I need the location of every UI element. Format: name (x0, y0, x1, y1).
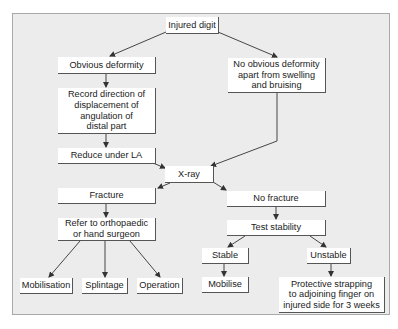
node-reduce-under-la: Reduce under LA (58, 148, 156, 164)
node-record-direction: Record direction of displacement of angu… (58, 88, 156, 134)
node-protective-strapping: Protective strapping to adjoining finger… (279, 277, 385, 313)
arrow-test-to-stable (228, 236, 245, 247)
arrow-injured-to-obvious (110, 32, 166, 56)
node-splintage: Splintage (82, 278, 128, 294)
node-test-stability: Test stability (227, 220, 326, 236)
node-stable: Stable (202, 248, 249, 264)
arrow-xray-to-fracture (158, 183, 170, 188)
node-obvious-deformity: Obvious deformity (58, 57, 156, 74)
node-injured-digit: Injured digit (166, 17, 219, 34)
node-xray: X-ray (165, 166, 214, 183)
arrow-xray-to-no-fracture (213, 182, 226, 190)
node-operation: Operation (137, 278, 183, 294)
arrow-no-obvious-to-xray (211, 93, 277, 166)
node-mobilisation: Mobilisation (20, 278, 73, 294)
node-no-fracture: No fracture (227, 191, 326, 207)
node-refer: Refer to orthopaedic or hand surgeon (58, 218, 156, 241)
arrow-injured-to-no-obvious (218, 32, 277, 57)
arrow-refer-to-mobilisation (49, 241, 80, 277)
node-mobilise: Mobilise (202, 277, 249, 293)
node-no-obvious-deformity: No obvious deformity apart from swelling… (228, 58, 326, 93)
node-unstable: Unstable (307, 248, 351, 264)
arrow-refer-to-operation (130, 241, 160, 277)
node-fracture: Fracture (58, 188, 156, 204)
arrow-test-to-unstable (310, 236, 326, 247)
